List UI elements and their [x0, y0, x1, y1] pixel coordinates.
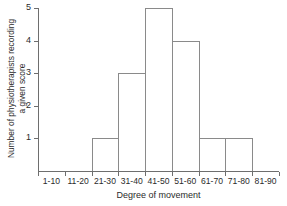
x-axis-title: Degree of movement: [38, 190, 279, 201]
bar-51-60: [172, 41, 200, 171]
y-axis-title: Number of physiotherapists recording a g…: [0, 0, 34, 176]
y-axis-tick-5: 5: [34, 8, 38, 9]
y-axis-tick-1: 1: [34, 138, 38, 139]
bar-41-50: [145, 8, 173, 171]
x-axis-tick-labels: 1-1011-2021-3031-4041-5051-6061-7071-808…: [38, 176, 279, 188]
x-axis-label-51-60: 51-60: [172, 176, 199, 187]
y-axis-tick-label-1: 1: [26, 132, 31, 143]
plot-area: 12345: [38, 8, 279, 172]
x-axis-tick-9: [279, 172, 280, 176]
x-axis-line: [38, 171, 279, 172]
x-axis-label-81-90: 81-90: [252, 176, 279, 187]
x-axis-label-1-10: 1-10: [38, 176, 65, 187]
y-axis-tick-4: 4: [34, 41, 38, 42]
y-axis-tick-3: 3: [34, 73, 38, 74]
y-axis-tick-label-4: 4: [26, 35, 31, 46]
x-axis-label-31-40: 31-40: [118, 176, 145, 187]
x-axis-label-71-80: 71-80: [225, 176, 252, 187]
x-axis-label-11-20: 11-20: [65, 176, 92, 187]
x-axis-label-21-30: 21-30: [92, 176, 119, 187]
bar-31-40: [118, 73, 146, 171]
y-axis-tick-label-3: 3: [26, 67, 31, 78]
y-axis-title-line-1: Number of physiotherapists recording: [7, 18, 18, 157]
x-axis-label-61-70: 61-70: [199, 176, 226, 187]
bar-61-70: [199, 138, 226, 171]
histogram-figure: Number of physiotherapists recording a g…: [0, 0, 287, 206]
y-axis-line: [38, 8, 39, 172]
bar-71-80: [225, 138, 253, 171]
bar-21-30: [92, 138, 119, 171]
y-axis-tick-2: 2: [34, 106, 38, 107]
y-axis-tick-label-2: 2: [26, 100, 31, 111]
y-axis-tick-label-5: 5: [26, 2, 31, 13]
x-axis-label-41-50: 41-50: [145, 176, 172, 187]
